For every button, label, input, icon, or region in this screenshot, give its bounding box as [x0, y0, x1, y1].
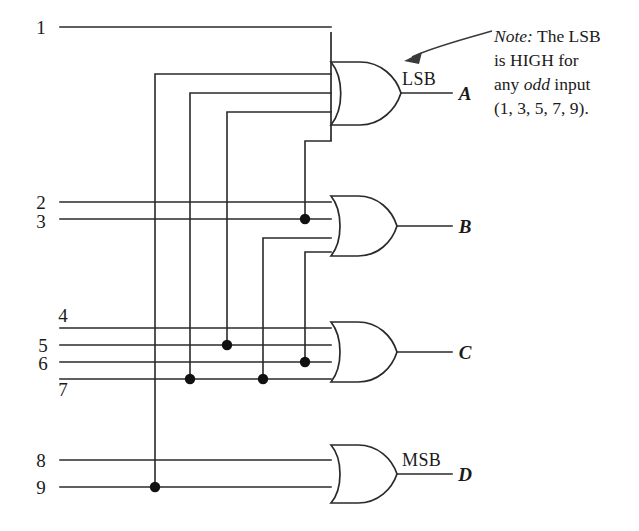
junction-dot-row5 — [222, 340, 232, 350]
note-line2: is HIGH for — [494, 50, 579, 70]
note-arrow-curve — [412, 31, 492, 57]
pin-label-2: 2 — [36, 192, 46, 213]
pin-label-9: 9 — [36, 477, 46, 498]
gate-d-or-body — [331, 445, 397, 503]
gate-b-group — [331, 196, 452, 256]
note-line4: (1, 3, 5, 7, 9). — [494, 98, 589, 118]
pin-label-8: 8 — [36, 450, 46, 471]
gate-c-group — [331, 322, 452, 382]
msb-tag: MSB — [402, 450, 441, 470]
gate-a-or-body — [331, 62, 401, 125]
pin-label-1: 1 — [36, 17, 46, 38]
junction-dot-row7-b — [258, 374, 268, 384]
pin-label-7: 7 — [58, 379, 68, 400]
junction-dot-row3 — [300, 214, 310, 224]
output-label-d: D — [457, 464, 472, 485]
output-label-b: B — [458, 216, 472, 237]
pin-label-6: 6 — [38, 353, 48, 374]
note-line1-rest: The LSB — [533, 26, 601, 46]
note-line3-emphasis: odd — [524, 74, 550, 94]
branch-3-to-gateA — [305, 141, 331, 219]
circuit-diagram: 1 2 3 4 5 6 7 8 9 LSB MSB A B C D Note: … — [0, 0, 639, 531]
branch-5-to-gateA — [227, 112, 331, 345]
note-lead: Note: — [494, 26, 533, 46]
junction-dot-row9 — [150, 482, 160, 492]
output-label-a: A — [458, 83, 472, 104]
lsb-tag: LSB — [402, 69, 436, 89]
note-arrow-head — [404, 52, 422, 64]
note-annotation: Note: The LSB is HIGH for any odd input … — [494, 24, 636, 120]
note-line3-b: input — [550, 74, 590, 94]
gate-b-or-body — [331, 196, 397, 256]
branch-7-to-gateA — [190, 93, 331, 379]
gate-c-or-body — [331, 322, 397, 382]
junction-dot-row7-a — [185, 374, 195, 384]
note-callout-arrow — [404, 31, 492, 64]
output-label-c: C — [459, 342, 472, 363]
pin-label-4: 4 — [58, 305, 68, 326]
junction-dot-row6 — [300, 357, 310, 367]
pin-label-3: 3 — [36, 211, 46, 232]
note-line3-a: any — [494, 74, 524, 94]
branch-7-to-gateB — [263, 238, 331, 379]
